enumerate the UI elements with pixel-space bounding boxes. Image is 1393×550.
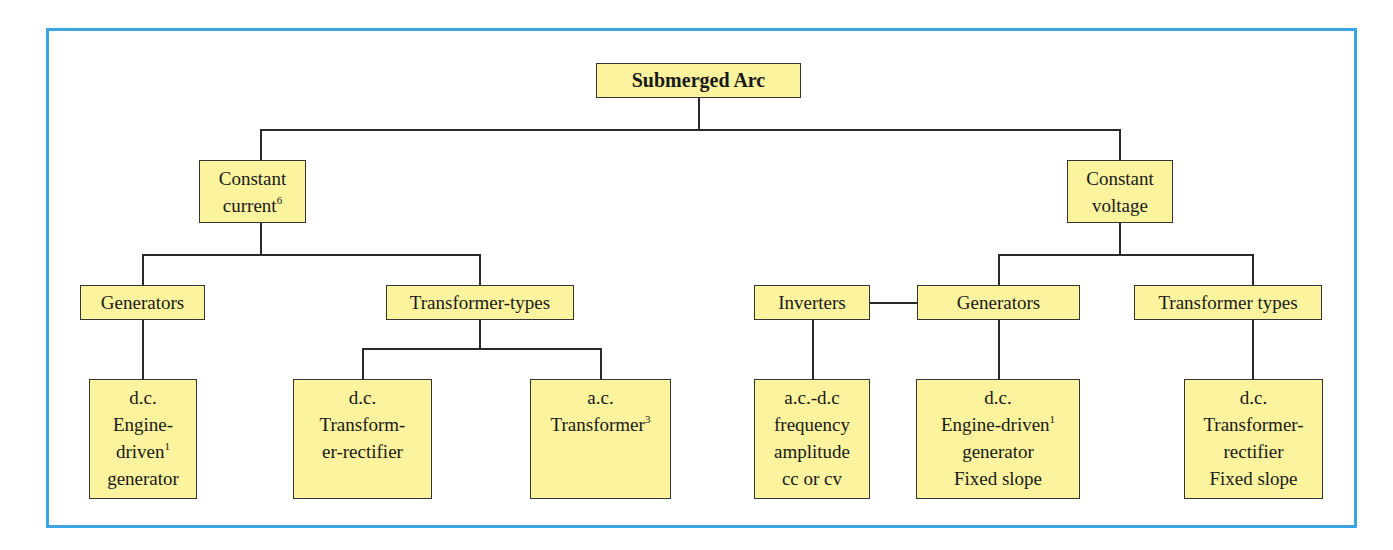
node-label: Engine- xyxy=(113,411,173,438)
node-label: Constant xyxy=(1086,165,1154,192)
node-label: Generators xyxy=(957,289,1040,316)
diagram-frame xyxy=(46,28,1357,528)
node-label: Transformer types xyxy=(1158,289,1297,316)
connector xyxy=(1252,254,1254,286)
connector xyxy=(142,254,480,256)
node-cc-transformer-types: Transformer-types xyxy=(386,285,574,320)
node-label: Inverters xyxy=(778,289,846,316)
connector xyxy=(142,254,144,285)
node-label: d.c. xyxy=(349,384,376,411)
node-label: generator xyxy=(962,438,1034,465)
connector xyxy=(998,254,1000,286)
node-label: generator xyxy=(107,465,179,492)
footnote-marker: 6 xyxy=(277,194,283,206)
footnote-marker: 3 xyxy=(645,413,651,425)
connector xyxy=(479,319,481,348)
node-label: a.c.-d.c xyxy=(784,384,839,411)
node-label: Transformer xyxy=(551,414,645,435)
connector xyxy=(998,254,1253,256)
node-constant-current: Constant current6 xyxy=(199,160,306,223)
connector xyxy=(142,319,144,379)
node-label: d.c. xyxy=(129,384,156,411)
footnote-marker: 1 xyxy=(1050,413,1056,425)
node-label: er-rectifier xyxy=(322,438,403,465)
node-label: amplitude xyxy=(774,438,850,465)
connector xyxy=(1252,319,1254,379)
node-label: Engine-driven xyxy=(941,414,1050,435)
node-label: Fixed slope xyxy=(1209,465,1297,492)
node-cv-engine-driven-generator: d.c. Engine-driven1 generator Fixed slop… xyxy=(916,379,1080,499)
connector xyxy=(479,254,481,285)
node-label: voltage xyxy=(1092,192,1148,219)
node-label: cc or cv xyxy=(782,465,842,492)
connector xyxy=(698,97,700,130)
connector xyxy=(260,223,262,254)
node-submerged-arc: Submerged Arc xyxy=(596,63,801,98)
node-label: Generators xyxy=(101,289,184,316)
node-cc-dc-transformer-rectifier: d.c. Transform- er-rectifier xyxy=(293,379,432,499)
connector xyxy=(998,319,1000,379)
node-label: Constant xyxy=(219,165,287,192)
connector xyxy=(812,319,814,379)
connector xyxy=(600,348,602,379)
node-cc-generators: Generators xyxy=(80,285,205,320)
node-label: rectifier xyxy=(1223,438,1283,465)
node-cc-engine-driven-generator: d.c. Engine- driven1 generator xyxy=(89,379,197,499)
node-constant-voltage: Constant voltage xyxy=(1067,160,1173,223)
node-label: Transformer-types xyxy=(410,289,550,316)
node-label: a.c. xyxy=(587,384,613,411)
node-cv-dc-transformer-rectifier: d.c. Transformer- rectifier Fixed slope xyxy=(1184,379,1323,499)
node-cv-inverter-acdc: a.c.-d.c frequency amplitude cc or cv xyxy=(754,379,870,499)
node-cv-generators: Generators xyxy=(917,285,1080,320)
node-label: d.c. xyxy=(1240,384,1267,411)
node-label: driven xyxy=(116,441,165,462)
node-cv-transformer-types: Transformer types xyxy=(1134,285,1322,320)
node-label: Transform- xyxy=(320,411,406,438)
connector xyxy=(260,129,262,160)
footnote-marker: 1 xyxy=(165,440,171,452)
node-label: Submerged Arc xyxy=(632,67,766,94)
connector xyxy=(1119,222,1121,254)
connector xyxy=(260,129,1120,131)
connector xyxy=(1119,129,1121,160)
connector xyxy=(870,302,917,304)
node-label: Fixed slope xyxy=(954,465,1042,492)
node-label: frequency xyxy=(774,411,850,438)
node-label: Transformer- xyxy=(1203,411,1303,438)
node-cv-inverters: Inverters xyxy=(754,285,870,320)
node-label: d.c. xyxy=(984,384,1011,411)
connector xyxy=(362,348,601,350)
node-label: current xyxy=(223,195,277,216)
connector xyxy=(362,348,364,379)
node-cc-ac-transformer: a.c. Transformer3 xyxy=(530,379,671,499)
